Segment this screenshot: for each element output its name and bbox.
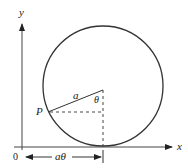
- x-axis-label: x: [176, 140, 182, 152]
- y-axis-label: y: [18, 6, 24, 18]
- point-label: P: [35, 105, 43, 117]
- angle-label: θ: [94, 94, 99, 105]
- origin-label: 0: [13, 151, 18, 162]
- radius-label: a: [73, 89, 79, 101]
- arc-length-label: aθ: [55, 150, 67, 162]
- cycloid-diagram: y x a θ P 0 aθ: [0, 0, 188, 168]
